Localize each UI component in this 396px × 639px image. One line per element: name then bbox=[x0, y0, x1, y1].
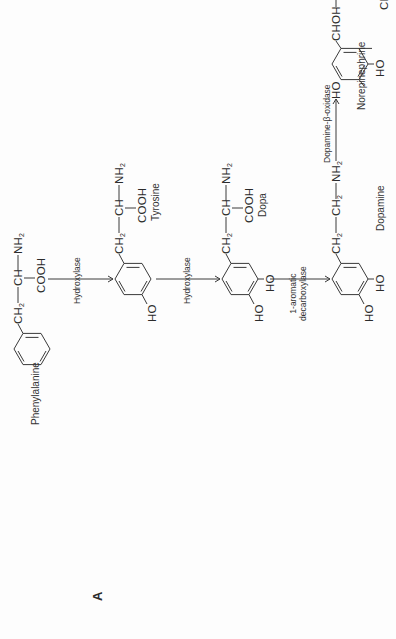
enzyme-label-line1: 1-aromatic bbox=[288, 266, 298, 321]
pathway-diagram: A Phenylalanine CH2 CH NH2 COOH Hydroxyl… bbox=[0, 0, 396, 639]
nh2-group: NH2 bbox=[113, 163, 125, 184]
benzene-ring-phenylalanine bbox=[14, 333, 50, 364]
enzyme-label-line2: decarboxylase bbox=[298, 266, 308, 321]
nh2-group: NH2 bbox=[330, 161, 342, 182]
compound-name-tyrosine: Tyrosine bbox=[150, 183, 162, 221]
nh2-group: NH2 bbox=[12, 233, 24, 254]
figure-page: A Phenylalanine CH2 CH NH2 COOH Hydroxyl… bbox=[0, 0, 396, 639]
cooh-group: COOH bbox=[243, 188, 255, 223]
compound-name-dopa: Dopa bbox=[257, 193, 269, 217]
panel-label: A bbox=[92, 592, 104, 601]
ch2-group: CH2 bbox=[220, 233, 232, 254]
chohh-group: CHOH bbox=[330, 6, 342, 41]
benzene-ring-dopa bbox=[222, 263, 258, 294]
ch2-group: CH2 bbox=[113, 233, 125, 254]
ch2-group: CH2 bbox=[12, 303, 24, 324]
cooh-group: COOH bbox=[136, 188, 148, 223]
benzene-ring-dopamine bbox=[332, 263, 368, 294]
ho-group-2: HO bbox=[374, 274, 386, 292]
ho-group-1: HO bbox=[253, 304, 265, 322]
ch-group: CH bbox=[113, 199, 125, 216]
ch-group: CH bbox=[220, 199, 232, 216]
enzyme-label-hydroxylase-1: Hydroxylase bbox=[72, 257, 82, 304]
ho-group-1: HO bbox=[363, 304, 375, 322]
norepinephrine-ch2-nh2: CH2—NH2 bbox=[378, 0, 390, 10]
cooh-group: COOH bbox=[35, 258, 47, 293]
ch-group: CH bbox=[12, 269, 24, 286]
compound-name-dopamine: Dopamine bbox=[375, 185, 387, 231]
enzyme-label-hydroxylase-2: Hydroxylase bbox=[182, 257, 192, 304]
benzene-ring-tyrosine bbox=[115, 263, 151, 294]
ho-group-1: HO bbox=[330, 81, 342, 99]
ch2-group-1: CH2 bbox=[330, 233, 342, 254]
compound-name-norepinephrine: Norepinephrine bbox=[356, 42, 368, 110]
enzyme-label-decarboxylase: 1-aromatic decarboxylase bbox=[288, 266, 308, 321]
nh2-group: NH2 bbox=[220, 163, 232, 184]
ho-group: HO bbox=[146, 304, 158, 322]
compound-name-phenylalanine: Phenylalanine bbox=[30, 362, 42, 425]
ho-group-2: HO bbox=[264, 274, 276, 292]
ho-group-2: HO bbox=[374, 59, 386, 77]
ch2-group-2: CH2 bbox=[330, 195, 342, 216]
